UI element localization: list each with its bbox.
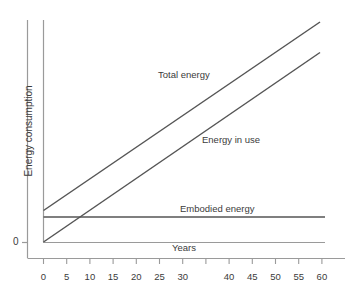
x-tick-label-60: 60 xyxy=(310,272,334,282)
x-axis-title: Years xyxy=(172,243,196,253)
chart-figure: Energy consumption 0 Years Total energy … xyxy=(0,0,359,296)
x-tick-label-30: 30 xyxy=(171,272,195,282)
y-axis-title: Energy consumption xyxy=(24,71,34,191)
y-tick-label-0: 0 xyxy=(13,237,19,247)
x-tick-label-0: 0 xyxy=(32,272,56,282)
series-label-embodied-energy: Embodied energy xyxy=(180,204,254,214)
x-tick-label-50: 50 xyxy=(264,272,288,282)
x-tick-label-55: 55 xyxy=(287,272,311,282)
x-tick-label-5: 5 xyxy=(55,272,79,282)
x-tick-label-15: 15 xyxy=(101,272,125,282)
x-tick-label-45: 45 xyxy=(240,272,264,282)
series-label-energy-in-use: Energy in use xyxy=(202,135,260,145)
x-tick-label-10: 10 xyxy=(78,272,102,282)
x-tick-label-25: 25 xyxy=(148,272,172,282)
x-tick-label-40: 40 xyxy=(217,272,241,282)
series-line-total-energy xyxy=(44,22,321,211)
series-label-total-energy: Total energy xyxy=(158,70,210,80)
x-tick-label-20: 20 xyxy=(124,272,148,282)
